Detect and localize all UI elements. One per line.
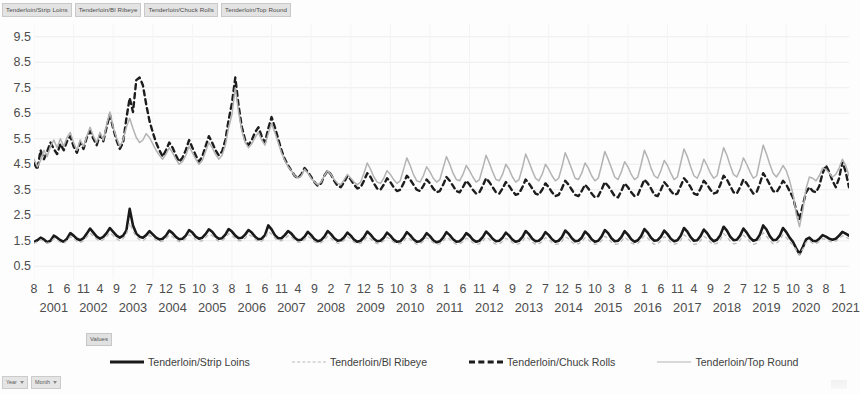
x-axis-month-tick: 3 [212,279,219,299]
y-axis-tick-label: 5.5 [14,133,31,146]
x-axis-month-tick: 1 [641,279,648,299]
pivot-field-button-0[interactable]: Tenderloin/Strip Loins [2,3,72,17]
y-axis-tick-label: 9.5 [14,31,31,44]
x-axis-month-tick: 12 [753,279,767,299]
x-axis-month-tick: 8 [31,279,38,299]
x-axis-year-label: 2015 [594,298,622,318]
x-axis-month-tick: 9 [311,279,318,299]
legend-line-swatch-icon [292,357,326,367]
x-axis-year-label: 2010 [396,298,424,318]
chart-legend: Tenderloin/Strip LoinsTenderloin/Bl Ribe… [110,352,845,372]
x-axis-month-tick: 1 [443,279,450,299]
values-field-button[interactable]: Values [86,333,112,346]
x-axis-month-tick: 12 [159,279,173,299]
x-axis-month-tick: 7 [344,279,351,299]
x-axis-month-tick: 2 [130,279,137,299]
corner-watermark [831,380,847,389]
x-axis-month-labels: 8161149271251038161149271251038161149271… [34,279,849,299]
x-axis-year-label: 2018 [713,298,741,318]
legend-line-swatch-icon [469,357,503,367]
pivot-field-button-1[interactable]: Tenderloin/Bl Ribeye [75,3,142,17]
x-axis-year-label: 2017 [673,298,701,318]
x-axis-year-label: 2001 [40,298,68,318]
x-axis-month-tick: 9 [509,279,516,299]
x-axis-month-tick: 11 [671,279,684,299]
axis-field-button-month[interactable]: Month [31,376,61,389]
x-axis-month-tick: 4 [295,279,302,299]
legend-item-label: Tenderloin/Strip Loins [148,356,250,368]
x-axis-month-tick: 10 [390,279,404,299]
x-axis-year-label: 2021 [831,298,859,318]
series-line-chuck_rolls [34,78,849,220]
x-axis-month-tick: 9 [707,279,714,299]
x-axis-year-label: 2013 [515,298,543,318]
legend-item-2: Tenderloin/Chuck Rolls [469,356,615,368]
x-axis-month-tick: 10 [588,279,602,299]
x-axis-month-tick: 6 [262,279,269,299]
x-axis-month-tick: 10 [192,279,206,299]
x-axis-month-tick: 8 [426,279,433,299]
x-axis-month-tick: 3 [410,279,417,299]
chart-canvas [34,24,849,279]
y-axis-tick-label: 3.5 [14,184,31,197]
axis-field-button-year[interactable]: Year [2,376,28,389]
x-axis-month-tick: 10 [786,279,800,299]
x-axis-month-tick: 7 [542,279,549,299]
series-line-top_round [34,88,849,227]
x-axis-year-label: 2003 [119,298,147,318]
legend-item-0: Tenderloin/Strip Loins [110,356,250,368]
x-axis-month-tick: 5 [575,279,582,299]
chart-plot-area[interactable]: 0.51.52.53.54.55.56.57.58.59.5 [0,24,851,279]
x-axis-month-tick: 4 [492,279,499,299]
pivot-field-button-3[interactable]: Tenderloin/Top Round [221,3,291,17]
x-axis-month-tick: 4 [690,279,697,299]
axis-field-label: Year [6,377,17,388]
y-axis-tick-label: 6.5 [14,107,31,120]
x-axis-year-label: 2005 [198,298,226,318]
x-axis-month-tick: 1 [245,279,252,299]
legend-item-label: Tenderloin/Bl Ribeye [330,356,427,368]
y-axis-tick-label: 2.5 [14,209,31,222]
x-axis-year-label: 2012 [475,298,503,318]
legend-item-label: Tenderloin/Chuck Rolls [507,356,615,368]
x-axis-year-labels: 2001200220032004200520062007200820092010… [34,298,849,318]
legend-item-3: Tenderloin/Top Round [657,356,798,368]
x-axis-month-tick: 11 [77,279,90,299]
x-axis-month-tick: 5 [377,279,384,299]
x-axis-month-tick: 8 [229,279,236,299]
x-axis-month-tick: 5 [773,279,780,299]
x-axis-month-tick: 3 [806,279,813,299]
x-axis-year-label: 2004 [158,298,186,318]
pivot-field-button-2[interactable]: Tenderloin/Chuck Rolls [144,3,217,17]
chevron-down-icon[interactable] [53,381,57,384]
x-axis-year-label: 2007 [277,298,305,318]
x-axis-year-label: 2006 [238,298,266,318]
x-axis-month-tick: 1 [839,279,846,299]
legend-item-label: Tenderloin/Top Round [695,356,798,368]
x-axis-year-label: 2008 [317,298,345,318]
x-axis-month-tick: 7 [146,279,153,299]
axis-field-bar: YearMonth [2,376,61,389]
x-axis-month-tick: 2 [525,279,532,299]
legend-item-1: Tenderloin/Bl Ribeye [292,356,427,368]
legend-line-swatch-icon [657,357,691,367]
x-axis-month-tick: 6 [64,279,71,299]
x-axis-month-tick: 6 [657,279,664,299]
x-axis-month-tick: 12 [555,279,569,299]
x-axis-month-tick: 11 [275,279,288,299]
pivot-field-bar: Tenderloin/Strip LoinsTenderloin/Bl Ribe… [2,3,291,17]
x-axis-month-tick: 4 [97,279,104,299]
x-axis-month-tick: 12 [357,279,371,299]
x-axis-month-tick: 8 [624,279,631,299]
x-axis-year-label: 2016 [633,298,661,318]
x-axis-month-tick: 5 [179,279,186,299]
x-axis-year-label: 2020 [792,298,820,318]
x-axis-month-tick: 7 [740,279,747,299]
x-axis-year-label: 2014 [554,298,582,318]
x-axis-month-tick: 3 [608,279,615,299]
x-axis: 8161149271251038161149271251038161149271… [34,279,849,325]
axis-field-label: Month [35,377,50,388]
y-axis: 0.51.52.53.54.55.56.57.58.59.5 [0,24,34,279]
chevron-down-icon[interactable] [20,381,24,384]
x-axis-year-label: 2009 [356,298,384,318]
